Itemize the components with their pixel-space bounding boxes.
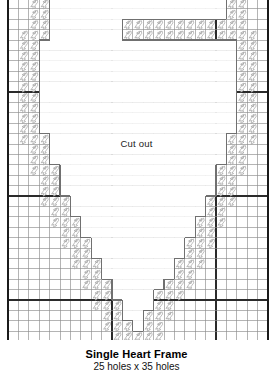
stitch-mark	[249, 31, 256, 40]
stitch-mark	[83, 239, 90, 248]
stitch-mark	[20, 73, 27, 82]
stitch-mark	[197, 21, 204, 30]
stitch-mark	[93, 270, 100, 279]
stitch-mark	[145, 322, 152, 331]
stitch-mark	[239, 31, 246, 40]
stitch-mark	[31, 41, 38, 50]
stitch-mark	[83, 249, 90, 258]
stitch-mark	[156, 21, 163, 30]
stitch-mark	[135, 333, 142, 340]
stitch-mark	[156, 291, 163, 300]
stitch-mark	[52, 177, 59, 186]
stitch-mark	[166, 301, 173, 310]
stitch-mark	[31, 83, 38, 92]
stitch-mark	[208, 239, 215, 248]
stitch-mark	[239, 62, 246, 71]
stitch-mark	[176, 21, 183, 30]
stitch-mark	[218, 31, 225, 40]
stitch-mark	[62, 229, 69, 238]
stitch-mark	[145, 21, 152, 30]
stitch-mark	[249, 104, 256, 113]
stitch-mark	[20, 125, 27, 134]
stitch-mark	[62, 239, 69, 248]
stitch-mark	[52, 218, 59, 227]
stitch-mark	[166, 281, 173, 290]
stitch-mark	[208, 208, 215, 217]
stitch-mark	[156, 301, 163, 310]
stitch-mark	[83, 260, 90, 269]
stitch-mark	[218, 218, 225, 227]
stitch-mark	[124, 21, 131, 30]
stitch-mark	[166, 21, 173, 30]
stitch-mark	[41, 0, 48, 9]
stitch-mark	[239, 41, 246, 50]
stitch-mark	[197, 239, 204, 248]
pattern-svg	[0, 0, 273, 340]
stitch-mark	[239, 104, 246, 113]
stitch-mark	[135, 21, 142, 30]
stitch-mark	[145, 31, 152, 40]
stitch-mark	[31, 93, 38, 102]
stitch-mark	[156, 333, 163, 340]
stitch-mark	[93, 260, 100, 269]
pattern-chart-area	[0, 0, 273, 340]
stitch-mark	[145, 312, 152, 321]
stitch-mark	[31, 10, 38, 19]
stitch-mark	[249, 62, 256, 71]
stitch-mark	[208, 218, 215, 227]
stitch-mark	[239, 156, 246, 165]
heart-cutout-region	[39, 0, 237, 331]
stitch-mark	[31, 0, 38, 9]
stitch-mark	[62, 208, 69, 217]
stitch-mark	[62, 197, 69, 206]
stitch-mark	[176, 281, 183, 290]
stitch-mark	[239, 0, 246, 9]
stitch-mark	[239, 166, 246, 175]
stitch-mark	[41, 166, 48, 175]
stitch-mark	[228, 10, 235, 19]
stitch-mark	[20, 114, 27, 123]
stitch-mark	[41, 10, 48, 19]
stitch-mark	[187, 21, 194, 30]
stitch-mark	[20, 104, 27, 113]
stitch-mark	[197, 229, 204, 238]
stitch-mark	[31, 73, 38, 82]
stitch-mark	[20, 31, 27, 40]
stitch-mark	[20, 93, 27, 102]
stitch-mark	[239, 125, 246, 134]
stitch-mark	[156, 322, 163, 331]
stitch-mark	[72, 249, 79, 258]
stitch-mark	[176, 31, 183, 40]
stitch-mark	[218, 197, 225, 206]
stitch-mark	[31, 31, 38, 40]
stitch-mark	[239, 52, 246, 61]
stitch-mark	[145, 333, 152, 340]
stitch-mark	[208, 31, 215, 40]
stitch-mark	[104, 281, 111, 290]
stitch-mark	[176, 291, 183, 300]
stitch-mark	[52, 197, 59, 206]
stitch-mark	[197, 31, 204, 40]
stitch-mark	[104, 322, 111, 331]
stitch-mark	[31, 166, 38, 175]
stitch-mark	[197, 260, 204, 269]
stitch-mark	[166, 291, 173, 300]
stitch-mark	[228, 21, 235, 30]
stitch-mark	[187, 239, 194, 248]
stitch-mark	[104, 291, 111, 300]
stitch-mark	[176, 270, 183, 279]
stitch-mark	[20, 83, 27, 92]
stitch-mark	[41, 21, 48, 30]
stitch-mark	[114, 312, 121, 321]
page-subtitle: 25 holes x 35 holes	[0, 361, 273, 373]
stitch-mark	[104, 301, 111, 310]
stitch-mark	[166, 312, 173, 321]
stitch-mark	[228, 177, 235, 186]
stitch-mark	[228, 197, 235, 206]
stitch-mark	[239, 83, 246, 92]
stitch-mark	[228, 156, 235, 165]
stitch-mark	[249, 83, 256, 92]
stitch-mark	[52, 208, 59, 217]
stitch-mark	[93, 281, 100, 290]
stitch-mark	[239, 10, 246, 19]
